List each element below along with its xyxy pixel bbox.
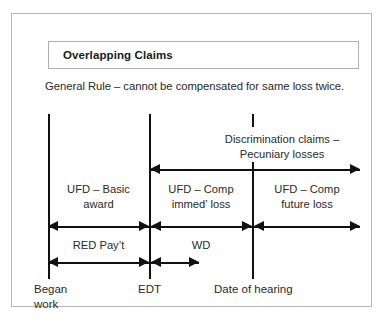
arrow-shaft (48, 226, 149, 228)
axis-label-began-work-line2: work (34, 297, 67, 312)
arrow-shaft (150, 169, 360, 171)
band-label-ufd-comp-immed-line1: UFD – Comp (150, 182, 252, 197)
band-label-wd: WD (150, 238, 252, 253)
band-arrow-wd (151, 257, 199, 268)
figure-outer-frame: Overlapping Claims General Rule – cannot… (11, 13, 372, 307)
band-label-red-payment-line1: RED Pay’t (48, 238, 149, 253)
figure-canvas: Overlapping Claims General Rule – cannot… (0, 0, 384, 323)
axis-label-edt-line1: EDT (138, 282, 161, 297)
arrow-shaft (48, 262, 149, 264)
arrow-head-left (151, 257, 161, 267)
band-arrow-discrimination (150, 164, 360, 175)
axis-label-began-work-line1: Began (34, 282, 67, 297)
axis-label-date-of-hearing: Date of hearing (214, 282, 293, 297)
timeline-marker-date-of-hearing-tick (252, 114, 254, 127)
band-label-discrimination-line2: Pecuniary losses (182, 147, 382, 162)
arrow-head-left (150, 164, 160, 174)
arrow-head-right (242, 221, 252, 231)
general-rule-text: General Rule – cannot be compensated for… (45, 80, 344, 92)
arrow-head-left (254, 221, 264, 231)
arrow-head-right (350, 221, 360, 231)
band-label-red-payment: RED Pay’t (48, 238, 149, 253)
arrow-head-left (48, 257, 58, 267)
band-label-ufd-comp-future-line1: UFD – Comp (254, 182, 360, 197)
band-label-ufd-comp-future-line2: future loss (254, 197, 360, 212)
arrow-head-right (350, 164, 360, 174)
band-label-ufd-comp-future: UFD – Comp future loss (254, 182, 360, 211)
axis-label-edt: EDT (138, 282, 161, 297)
arrow-shaft (151, 226, 252, 228)
band-label-ufd-comp-immed: UFD – Comp immed’ loss (150, 182, 252, 211)
band-label-ufd-comp-immed-line2: immed’ loss (150, 197, 252, 212)
band-label-discrimination-line1: Discrimination claims – (182, 132, 382, 147)
band-label-wd-line1: WD (150, 238, 252, 253)
arrow-head-right (139, 221, 149, 231)
arrow-head-left (48, 221, 58, 231)
band-label-ufd-basic-line2: award (48, 197, 149, 212)
arrow-head-left (151, 221, 161, 231)
band-arrow-ufd-comp-future (254, 221, 360, 232)
band-label-discrimination: Discrimination claims – Pecuniary losses (182, 132, 382, 161)
band-arrow-ufd-basic (48, 221, 149, 232)
band-arrow-red-payment (48, 257, 149, 268)
page-title: Overlapping Claims (63, 49, 173, 61)
band-arrow-ufd-comp-immed (151, 221, 252, 232)
title-box: Overlapping Claims (48, 41, 359, 69)
axis-label-date-of-hearing-line1: Date of hearing (214, 282, 293, 297)
arrow-head-right (189, 257, 199, 267)
axis-label-began-work: Began work (34, 282, 67, 312)
band-label-ufd-basic: UFD – Basic award (48, 182, 149, 211)
arrow-head-right (139, 257, 149, 267)
band-label-ufd-basic-line1: UFD – Basic (48, 182, 149, 197)
arrow-shaft (254, 226, 360, 228)
